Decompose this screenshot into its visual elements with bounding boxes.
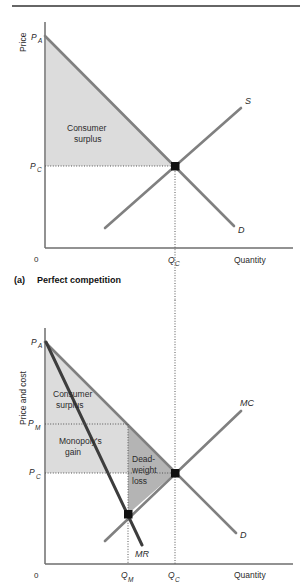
svg-text:A: A [37, 342, 42, 349]
monopoly-panel: Price and cost P A P M P C 0 Q M Q C Qua… [18, 300, 293, 583]
marginal-cost-label-b: MC [240, 398, 254, 408]
svg-text:P: P [29, 467, 35, 477]
svg-text:loss: loss [132, 476, 147, 486]
svg-text:P: P [30, 161, 36, 171]
quantity-label-qc-a: Q C [168, 255, 180, 267]
monopoly-output-point-b [124, 510, 133, 519]
svg-text:weight: weight [131, 465, 157, 475]
svg-text:A: A [37, 37, 42, 44]
svg-text:C: C [175, 576, 180, 583]
perfect-competition-panel: Price P A P C 0 Q C Quantity S D Consume… [18, 22, 293, 300]
svg-text:(a): (a) [14, 275, 25, 285]
competitive-equilibrium-point-b [171, 469, 180, 478]
svg-text:surplus: surplus [56, 400, 83, 410]
quantity-label-qm-b: Q M [121, 570, 134, 583]
svg-text:Q: Q [121, 570, 128, 580]
svg-text:P: P [28, 418, 34, 428]
svg-text:P: P [31, 337, 37, 347]
demand-curve-label-b: D [240, 530, 247, 540]
origin-label-a: 0 [34, 255, 39, 264]
svg-text:C: C [175, 260, 180, 267]
svg-text:Q: Q [168, 570, 175, 580]
marginal-revenue-label-b: MR [135, 549, 149, 559]
origin-label-b: 0 [34, 571, 39, 580]
svg-text:Monopoly's: Monopoly's [59, 436, 102, 446]
y-axis-title-a: Price [18, 32, 28, 52]
price-label-pc-a: P C [30, 161, 42, 173]
svg-text:Consumer: Consumer [53, 389, 92, 399]
svg-text:surplus: surplus [74, 134, 101, 144]
x-axis-title-a: Quantity [234, 255, 266, 265]
x-axis-title-b: Quantity [234, 570, 266, 580]
equilibrium-point-a [171, 162, 180, 171]
supply-curve-label-a: S [245, 96, 251, 106]
svg-text:Dead-: Dead- [132, 454, 155, 464]
price-label-pa-a: P A [31, 32, 42, 44]
caption-a: (a) Perfect competition [14, 275, 121, 285]
price-label-pc-b: P C [29, 467, 41, 480]
svg-text:M: M [128, 576, 134, 583]
demand-curve-label-a: D [238, 225, 245, 235]
svg-text:P: P [31, 32, 37, 42]
price-label-pm-b: P M [28, 418, 41, 431]
svg-text:gain: gain [65, 447, 81, 457]
y-axis-title-b: Price and cost [18, 371, 28, 425]
quantity-label-qc-b: Q C [168, 570, 180, 583]
svg-text:Consumer: Consumer [67, 123, 106, 133]
svg-text:C: C [36, 473, 41, 480]
svg-text:M: M [35, 424, 41, 431]
svg-text:C: C [37, 166, 42, 173]
svg-text:Q: Q [168, 255, 175, 265]
price-label-pa-b: P A [31, 337, 42, 349]
svg-text:Perfect competition: Perfect competition [37, 275, 121, 285]
economics-figure: Price P A P C 0 Q C Quantity S D Consume… [0, 0, 302, 588]
